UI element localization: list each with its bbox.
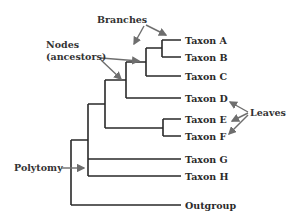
tree-lines xyxy=(0,0,292,222)
annotation-leaves: Leaves xyxy=(250,107,286,118)
phylogenetic-tree-diagram: Taxon A Taxon B Taxon C Taxon D Taxon E … xyxy=(0,0,292,222)
annotation-nodes: Nodes xyxy=(46,39,79,50)
leaf-taxon-a: Taxon A xyxy=(185,35,227,46)
leaf-taxon-e: Taxon E xyxy=(185,114,227,125)
leaf-outgroup: Outgroup xyxy=(185,200,236,211)
tree-branches xyxy=(71,40,181,205)
leaf-taxon-c: Taxon C xyxy=(185,71,227,82)
leaf-taxon-f: Taxon F xyxy=(185,131,226,142)
annotation-ancestors: (ancestors) xyxy=(46,51,106,62)
leaf-taxon-d: Taxon D xyxy=(185,93,228,104)
leaf-taxon-g: Taxon G xyxy=(185,154,228,165)
annotation-polytomy: Polytomy xyxy=(14,162,63,173)
leaf-taxon-h: Taxon H xyxy=(185,171,229,182)
annotation-branches: Branches xyxy=(97,14,147,25)
leaf-taxon-b: Taxon B xyxy=(185,52,228,63)
